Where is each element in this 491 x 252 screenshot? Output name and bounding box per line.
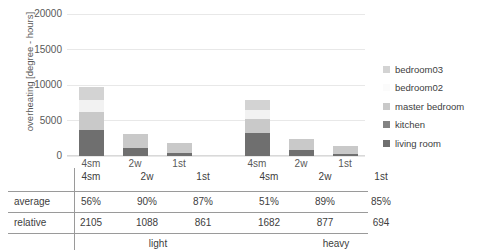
table-header-cell: 4sm bbox=[241, 171, 297, 182]
bar-segment-living-room bbox=[289, 150, 314, 156]
gridline bbox=[67, 14, 365, 15]
table-group-label-heavy: heavy bbox=[276, 238, 396, 249]
bar-segment-bedroom03 bbox=[245, 100, 270, 110]
data-table: 4sm2w1st4sm2w1staveragerelative56%90%87%… bbox=[0, 166, 372, 252]
gridline bbox=[67, 85, 365, 86]
plot-area: 05000100001500020000 bbox=[67, 14, 365, 156]
bar bbox=[167, 14, 192, 156]
table-cell-average: 85% bbox=[353, 196, 409, 207]
y-tick-label: 5000 bbox=[12, 116, 62, 126]
legend-item-master-bedroom[interactable]: master bedroom bbox=[383, 97, 491, 116]
legend-item-bedroom03[interactable]: bedroom03 bbox=[383, 60, 491, 79]
table-cell-average: 89% bbox=[297, 196, 353, 207]
bar-segment-master-bedroom bbox=[333, 146, 358, 154]
table-header-cell: 4sm bbox=[63, 171, 119, 182]
table-cell-relative: 2105 bbox=[63, 217, 119, 228]
legend-item-living-room[interactable]: living room bbox=[383, 134, 491, 153]
y-tick-label: 15000 bbox=[12, 45, 62, 55]
bar bbox=[245, 14, 270, 156]
bar-segment-bedroom02 bbox=[79, 100, 104, 112]
x-axis-line bbox=[67, 155, 365, 156]
legend-label: bedroom02 bbox=[395, 83, 443, 93]
legend-swatch-icon bbox=[383, 84, 390, 91]
table-horizontal-divider bbox=[8, 212, 368, 213]
bar-segment-master-bedroom bbox=[123, 134, 148, 148]
legend-swatch-icon bbox=[383, 66, 390, 73]
table-group-label-light: light bbox=[98, 238, 218, 249]
legend-label: master bedroom bbox=[395, 102, 464, 112]
bar-segment-living-room bbox=[123, 148, 148, 156]
table-cell-average: 56% bbox=[63, 196, 119, 207]
table-cell-relative: 861 bbox=[175, 217, 231, 228]
chart-figure: overheating [degree - hours] 05000100001… bbox=[0, 0, 491, 252]
y-tick-label: 10000 bbox=[12, 80, 62, 90]
bar bbox=[333, 14, 358, 156]
table-horizontal-divider bbox=[8, 233, 368, 234]
legend-swatch-icon bbox=[383, 121, 390, 128]
legend-label: bedroom03 bbox=[395, 65, 443, 75]
table-cell-relative: 1088 bbox=[119, 217, 175, 228]
legend-swatch-icon bbox=[383, 103, 390, 110]
bar-segment-bedroom02 bbox=[245, 110, 270, 119]
table-cell-relative: 1682 bbox=[241, 217, 297, 228]
table-header-cell: 1st bbox=[175, 171, 231, 182]
bar-segment-living-room bbox=[245, 133, 270, 156]
y-tick-label: 0 bbox=[12, 151, 62, 161]
y-tick-label: 20000 bbox=[12, 9, 62, 19]
table-cell-relative: 877 bbox=[297, 217, 353, 228]
table-header-cell: 1st bbox=[353, 171, 409, 182]
chart-legend: bedroom03bedroom02master bedroomkitchenl… bbox=[383, 60, 491, 153]
bar-segment-master-bedroom bbox=[289, 139, 314, 150]
bar bbox=[123, 14, 148, 156]
bar-segment-bedroom03 bbox=[79, 87, 104, 100]
bar-segment-master-bedroom bbox=[79, 112, 104, 130]
gridline bbox=[67, 49, 365, 50]
table-horizontal-divider bbox=[8, 191, 368, 192]
legend-item-kitchen[interactable]: kitchen bbox=[383, 116, 491, 135]
bar-segment-master-bedroom bbox=[245, 119, 270, 134]
gridline bbox=[67, 120, 365, 121]
table-header-cell: 2w bbox=[297, 171, 353, 182]
bar-segment-living-room bbox=[79, 130, 104, 156]
table-cell-average: 87% bbox=[175, 196, 231, 207]
bar-segment-master-bedroom bbox=[167, 143, 192, 152]
table-cell-average: 90% bbox=[119, 196, 175, 207]
legend-label: kitchen bbox=[395, 120, 425, 130]
bar bbox=[289, 14, 314, 156]
legend-swatch-icon bbox=[383, 140, 390, 147]
table-cell-average: 51% bbox=[241, 196, 297, 207]
legend-label: living room bbox=[395, 139, 441, 149]
legend-item-bedroom02[interactable]: bedroom02 bbox=[383, 79, 491, 98]
table-header-cell: 2w bbox=[119, 171, 175, 182]
table-cell-relative: 694 bbox=[353, 217, 409, 228]
bar-segment-living-room bbox=[167, 153, 192, 156]
bar bbox=[79, 14, 104, 156]
bar-segment-living-room bbox=[333, 154, 358, 156]
